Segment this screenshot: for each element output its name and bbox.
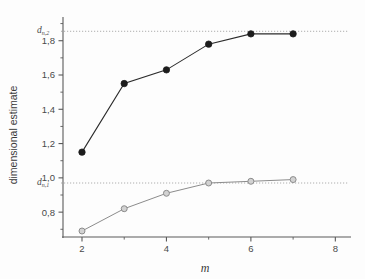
x-axis-title: m (201, 261, 210, 275)
data-point-upper (205, 41, 211, 47)
x-tick-label: 4 (164, 243, 169, 254)
data-point-upper (290, 31, 296, 37)
x-tick-label: 2 (79, 243, 84, 254)
reference-lines-group (61, 31, 348, 183)
axes-spines-group (62, 17, 351, 238)
data-point-lower (290, 177, 296, 183)
data-point-upper (121, 80, 127, 86)
series-line-upper (82, 34, 293, 152)
data-point-upper (248, 31, 254, 37)
y-tick-label: 1,4 (42, 104, 55, 115)
y-tick-label: 1,2 (42, 138, 55, 149)
data-point-lower (248, 178, 254, 184)
y-tick-label: 0,8 (42, 207, 55, 218)
line-chart: 0,81,01,21,41,61,82468 dn,2dn,1 dimensio… (0, 0, 365, 279)
data-point-upper (163, 67, 169, 73)
y-tick-label: 1,6 (42, 69, 55, 80)
data-point-lower (79, 228, 85, 234)
series-line-lower (82, 180, 293, 231)
x-tick-label: 6 (248, 243, 253, 254)
figure-canvas: 0,81,01,21,41,61,82468 dn,2dn,1 dimensio… (0, 0, 365, 279)
reference-label-d_n_2: dn,2 (37, 25, 49, 36)
data-point-lower (163, 190, 169, 196)
x-tick-label: 8 (333, 243, 338, 254)
reference-label-subscript: n,1 (42, 182, 50, 188)
data-point-upper (79, 149, 85, 155)
data-point-lower (121, 206, 127, 212)
data-point-lower (206, 180, 212, 186)
axis-ticks-group (59, 24, 336, 242)
y-axis-title: dimensional estimate (7, 86, 19, 185)
y-tick-label: 1,8 (42, 35, 55, 46)
reference-label-subscript: n,2 (42, 30, 50, 36)
data-series-group (79, 31, 297, 234)
